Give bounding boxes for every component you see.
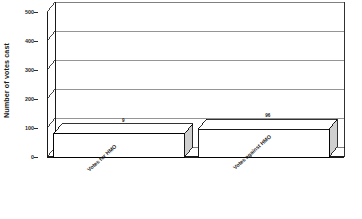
plot-area	[0, 0, 362, 219]
bar-value-label: 96	[256, 113, 280, 118]
chart-container: Number of votes cast 0100200300400500 Vo…	[0, 0, 362, 219]
bar-value-label: 9	[111, 118, 135, 123]
